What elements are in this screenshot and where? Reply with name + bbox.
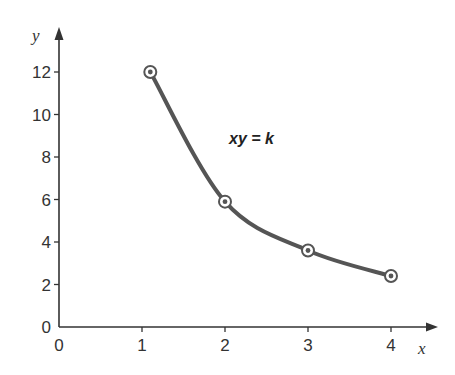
y-axis-label: y	[30, 26, 40, 45]
data-point-dot	[148, 70, 153, 75]
x-axis-label: x	[417, 339, 426, 358]
chart-canvas: 02468101201234 x y xy = k	[0, 0, 455, 375]
equation-annotation: xy = k	[228, 130, 275, 147]
x-tick-label: 0	[54, 336, 63, 355]
tick-marks: 02468101201234	[32, 63, 396, 355]
y-tick-label: 12	[32, 63, 51, 82]
axes	[55, 27, 439, 332]
x-tick-label: 4	[386, 336, 395, 355]
curve-layer	[150, 72, 391, 276]
y-tick-label: 10	[32, 106, 51, 125]
y-tick-label: 8	[42, 148, 51, 167]
data-markers	[144, 66, 397, 282]
hyperbola-curve	[150, 72, 391, 276]
y-tick-label: 0	[42, 318, 51, 337]
data-point-dot	[389, 274, 394, 279]
y-tick-label: 4	[42, 233, 51, 252]
data-point-dot	[306, 248, 311, 253]
data-point-dot	[223, 199, 228, 204]
x-tick-label: 1	[137, 336, 146, 355]
x-axis-arrow-icon	[426, 323, 438, 332]
y-tick-label: 6	[42, 191, 51, 210]
y-axis-arrow-icon	[55, 27, 64, 40]
y-tick-label: 2	[42, 276, 51, 295]
x-tick-label: 2	[220, 336, 229, 355]
x-tick-label: 3	[303, 336, 312, 355]
